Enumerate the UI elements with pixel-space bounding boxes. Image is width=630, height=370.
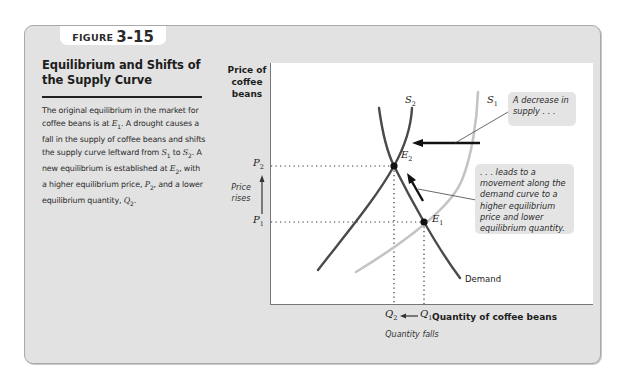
price-rises-note: Price rises <box>224 182 258 204</box>
guide-lines <box>271 166 424 304</box>
x-axis-label: Quantity of coffee beans <box>432 312 557 322</box>
quantity-fall-arrow-head <box>400 314 406 319</box>
e2-label: E2 <box>401 149 412 163</box>
tick-q1: Q1 <box>420 308 432 322</box>
supply-decrease-callout: A decrease in supply . . . <box>508 92 576 126</box>
movement-arrow-head <box>407 173 416 184</box>
tick-p2: P2 <box>253 157 264 171</box>
e2-point <box>390 162 397 169</box>
tick-p1: P1 <box>253 214 264 228</box>
quantity-falls-note: Quantity falls <box>374 329 450 340</box>
s1-curve <box>356 92 478 272</box>
movement-arrow-line <box>411 180 423 201</box>
e1-point <box>420 218 427 225</box>
movement-callout: . . . leads to a movement along the dema… <box>475 164 574 234</box>
tick-q2: Q2 <box>385 308 397 322</box>
demand-label: Demand <box>465 274 501 284</box>
callout2-leader <box>418 189 476 200</box>
callout1-leader <box>455 112 508 143</box>
e1-label: E1 <box>432 213 443 227</box>
shift-arrow-head <box>412 139 423 147</box>
s1-label: S1 <box>487 94 498 108</box>
price-rise-arrow-head <box>260 175 265 182</box>
s2-label: S2 <box>405 94 416 108</box>
